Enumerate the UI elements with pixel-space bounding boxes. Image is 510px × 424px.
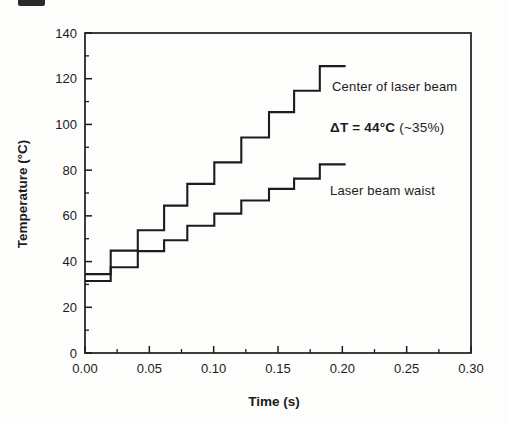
y-axis-tick-label: 0 xyxy=(70,346,77,361)
delta-t-annotation-rest: (~35%) xyxy=(395,120,444,135)
x-axis-tick-label: 0.10 xyxy=(201,361,226,376)
y-axis-tick-label: 140 xyxy=(55,26,77,41)
y-axis-tick-label: 40 xyxy=(63,254,77,269)
y-axis-tick-label: 100 xyxy=(55,117,77,132)
y-axis-tick-label: 60 xyxy=(63,208,77,223)
x-axis-tick-label: 0.05 xyxy=(137,361,162,376)
x-axis-title: Time (s) xyxy=(248,394,300,409)
delta-t-annotation-bold: ΔT = 44°C xyxy=(330,120,395,135)
series-label-center-of-laser-beam: Center of laser beam xyxy=(332,79,457,94)
y-axis-tick-label: 20 xyxy=(63,300,77,315)
x-axis-tick-label: 0.30 xyxy=(458,361,483,376)
y-axis-title: Temperature (°C) xyxy=(15,140,30,249)
curve-center-of-laser-beam xyxy=(85,66,346,274)
delta-t-annotation: ΔT = 44°C (~35%) xyxy=(330,120,444,135)
x-axis-tick-label: 0.25 xyxy=(394,361,419,376)
x-axis-tick-label: 0.15 xyxy=(265,361,290,376)
series-label-laser-beam-waist: Laser beam waist xyxy=(330,183,435,198)
figure: 0.000.050.100.150.200.250.30020406080100… xyxy=(0,0,510,424)
chart-plot-area: 0.000.050.100.150.200.250.30020406080100… xyxy=(0,0,510,424)
x-axis-tick-label: 0.20 xyxy=(330,361,355,376)
y-axis-tick-label: 120 xyxy=(55,71,77,86)
x-axis-tick-label: 0.00 xyxy=(72,361,97,376)
y-axis-tick-label: 80 xyxy=(63,163,77,178)
